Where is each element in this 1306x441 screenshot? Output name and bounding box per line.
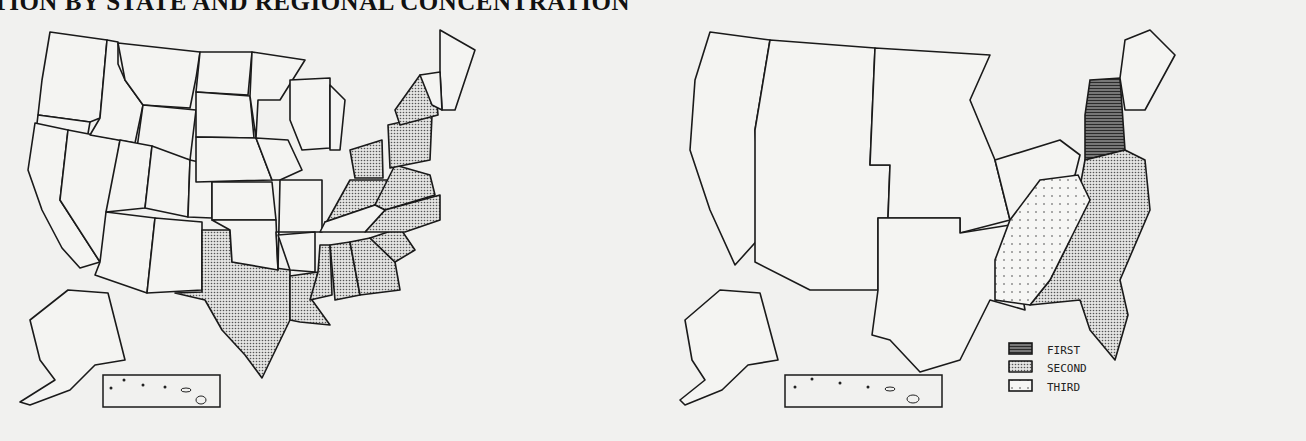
legend-swatch-first [1009, 343, 1032, 354]
legend-label-third: THIRD [1047, 381, 1080, 394]
legend: FIRST SECOND THIRD [1009, 343, 1087, 394]
alaska-left [20, 290, 125, 405]
legend-label-second: SECOND [1047, 362, 1087, 375]
legend-label-first: FIRST [1047, 344, 1080, 357]
legend-swatch-third [1009, 380, 1032, 391]
hawaii-inset-right [785, 375, 942, 407]
maps-figure: FIRST SECOND THIRD [0, 0, 1306, 441]
legend-swatch-second [1009, 361, 1032, 372]
alaska-right [680, 290, 778, 405]
hawaii-inset-left [103, 375, 220, 407]
